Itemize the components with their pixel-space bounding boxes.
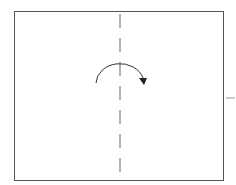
paper-sheet bbox=[15, 12, 224, 181]
fold-diagram bbox=[0, 0, 236, 185]
